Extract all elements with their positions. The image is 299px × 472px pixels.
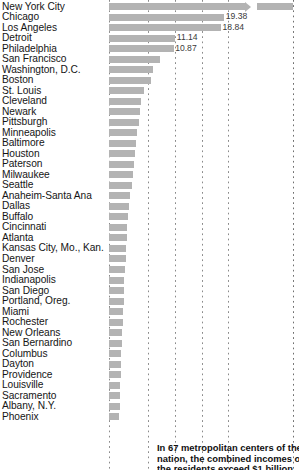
bar-row: Phoenix [0, 412, 299, 423]
bar [109, 382, 120, 389]
bar-row-label: Louisville [2, 379, 142, 390]
bar [109, 308, 123, 315]
bar [109, 329, 122, 336]
bar [109, 361, 121, 368]
bar-row-label: Providence [2, 369, 142, 380]
bar [109, 14, 224, 21]
bar [109, 3, 245, 10]
bar [109, 287, 124, 294]
bar [109, 245, 126, 252]
bar [109, 45, 174, 52]
chart-caption: In 67 metropolitan centers of the nation… [157, 443, 299, 470]
bar [109, 192, 130, 199]
bar [109, 266, 125, 273]
bar [109, 150, 135, 157]
bar [109, 140, 136, 147]
caption-line-2: nation, the combined incomes of [157, 454, 299, 465]
bar [109, 66, 153, 73]
caption-line-3: the residents exceed $1 billion [157, 464, 299, 470]
bar-row-label: Dayton [2, 358, 142, 369]
bar [109, 371, 121, 378]
bar-value-label: 18.84 [223, 22, 245, 33]
bar [109, 340, 122, 347]
bar-value-label: 11.14 [177, 32, 198, 43]
bar [109, 129, 137, 136]
bar [109, 224, 127, 231]
bar [109, 277, 124, 284]
bar-chart: New York CityChicago19.38Los Angeles18.8… [0, 0, 299, 472]
bar [109, 350, 121, 357]
bar [109, 403, 120, 410]
bar [109, 171, 133, 178]
bar [109, 108, 140, 115]
bar [109, 35, 175, 42]
bar-rows: New York CityChicago19.38Los Angeles18.8… [0, 0, 299, 472]
bar [109, 319, 123, 326]
bar-offscale-tail [257, 3, 293, 10]
bar [109, 298, 124, 305]
bar-row-label: Albany, N.Y. [2, 400, 142, 411]
bar [109, 182, 132, 189]
bar [109, 87, 144, 94]
bar [109, 119, 139, 126]
bar [109, 213, 128, 220]
bar-value-label: 10.87 [175, 43, 197, 54]
bar [109, 413, 119, 420]
bar [109, 392, 120, 399]
bar [109, 255, 126, 262]
bar [109, 161, 134, 168]
bar [109, 203, 129, 210]
bar [109, 234, 127, 241]
bar [109, 56, 160, 63]
bar [109, 98, 141, 105]
bar [109, 24, 221, 31]
bar-value-label: 19.38 [226, 11, 248, 22]
bar [109, 77, 151, 84]
bar-row-label: Sacramento [2, 390, 142, 401]
bar-row-label: Phoenix [2, 411, 142, 422]
caption-line-1: In 67 metropolitan centers of the [157, 443, 299, 454]
